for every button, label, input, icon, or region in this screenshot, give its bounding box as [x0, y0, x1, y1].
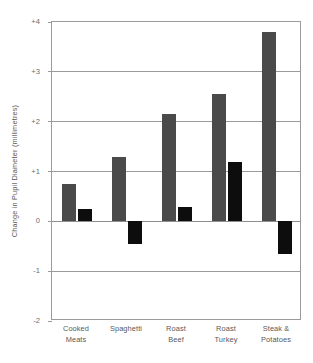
y-axis-tick-label: +1: [31, 166, 40, 175]
x-axis-category-label-line: Spaghetti: [101, 324, 151, 335]
y-axis-tick-labels: +4+3+2+10-1-2: [0, 0, 48, 363]
bar: [262, 32, 276, 221]
bar: [112, 157, 126, 222]
y-axis-tick-mark: [48, 121, 52, 122]
x-axis-category-label-line: Steak &: [251, 324, 301, 335]
y-axis-tick-label: -1: [33, 266, 40, 275]
x-axis-category-label-line: Meats: [51, 335, 101, 346]
bar: [212, 94, 226, 221]
bar: [128, 221, 142, 243]
x-axis-category-label-line: Beef: [151, 335, 201, 346]
x-axis-category-label-line: Turkey: [201, 335, 251, 346]
x-axis-category-label: RoastTurkey: [201, 324, 251, 345]
y-axis-tick-mark: [48, 71, 52, 72]
y-axis-tick-mark: [48, 221, 52, 222]
y-axis-tick-mark: [48, 22, 52, 23]
bar-chart: Change in Pupil Diameter (millimetres) +…: [0, 0, 313, 363]
plot-area: [51, 21, 301, 320]
x-axis-category-label: RoastBeef: [151, 324, 201, 345]
bar: [62, 184, 76, 221]
y-axis-tick-label: -2: [33, 316, 40, 325]
x-axis-category-label-line: Cooked: [51, 324, 101, 335]
bar: [228, 162, 242, 222]
x-axis-category-label-line: Potatoes: [251, 335, 301, 346]
x-axis-category-label: CookedMeats: [51, 324, 101, 345]
bar: [162, 114, 176, 221]
y-axis-tick-label: +2: [31, 116, 40, 125]
x-axis-category-label: Steak &Potatoes: [251, 324, 301, 345]
x-axis-category-label: Spaghetti: [101, 324, 151, 335]
x-axis-category-label-line: Roast: [201, 324, 251, 335]
y-axis-tick-mark: [48, 321, 52, 322]
bar: [278, 221, 292, 253]
y-axis-tick-mark: [48, 171, 52, 172]
y-axis-tick-label: 0: [36, 216, 40, 225]
bar: [178, 207, 192, 221]
x-axis-category-label-line: Roast: [151, 324, 201, 335]
bar: [78, 209, 92, 221]
y-axis-tick-mark: [48, 271, 52, 272]
gridline: [52, 271, 300, 272]
y-axis-tick-label: +4: [31, 17, 40, 26]
x-axis-tick-labels: CookedMeatsSpaghettiRoastBeefRoastTurkey…: [51, 324, 301, 360]
y-axis-tick-label: +3: [31, 66, 40, 75]
